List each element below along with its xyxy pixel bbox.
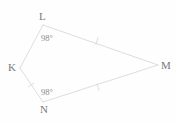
edge-lm — [43, 25, 158, 65]
quadrilateral-svg — [0, 0, 176, 122]
tick-group — [28, 38, 99, 90]
edge-mn — [43, 65, 158, 102]
vertex-label-k: K — [8, 62, 16, 73]
angle-label-l: 98° — [41, 34, 53, 43]
edge-kl — [20, 25, 43, 68]
vertex-label-l: L — [39, 11, 46, 22]
angle-label-n: 98° — [41, 88, 53, 97]
tick-mark-lm — [96, 38, 98, 44]
vertex-label-m: M — [161, 60, 171, 71]
vertex-label-n: N — [40, 104, 48, 115]
geometry-figure: LMNK 98°98° — [0, 0, 176, 122]
